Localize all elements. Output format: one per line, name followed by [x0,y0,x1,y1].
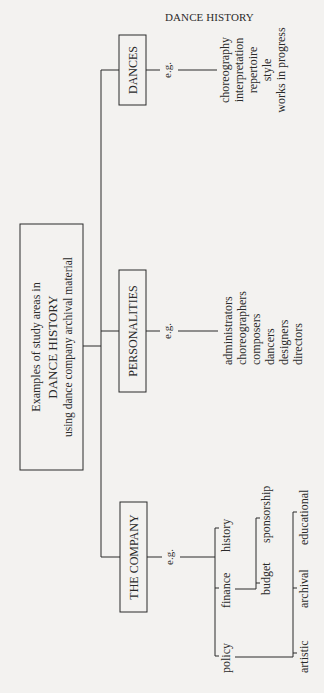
root-line-3: using dance company archival material [62,257,75,437]
personalities-item: directors [291,323,305,365]
dances-eg: e.g. [161,62,173,78]
branch-dances: DANCES e.g. choreography interpretation … [101,27,288,113]
personalities-label: PERSONALITIES [126,285,140,376]
dances-item: style [260,59,274,82]
company-eg: e.g. [163,549,175,565]
personalities-item: composers [249,313,263,365]
policy-sub-educational: educational [297,489,311,545]
dances-item: repertoire [246,47,260,94]
study-areas-diagram: Examples of study areas in DANCE HISTORY… [0,0,324,693]
personalities-item: administrators [221,296,235,365]
page: DANCE HISTORY Examples of study areas in… [0,0,324,693]
company-item-history: history [219,519,233,552]
finance-sub-budget: budget [259,562,273,595]
personalities-item: designers [277,319,291,365]
personalities-item: choreographers [235,291,249,365]
policy-sub-archival: archival [297,569,311,608]
root-line-1: Examples of study areas in [29,282,43,411]
policy-sub-artistic: artistic [297,640,311,673]
company-item-finance: finance [219,573,233,608]
branch-company: THE COMPANY e.g. history finance policy … [101,486,311,673]
dances-label: DANCES [126,46,140,94]
root-line-2: DANCE HISTORY [45,295,60,399]
dances-item: choreography [218,37,232,103]
finance-sub-sponsorship: sponsorship [259,486,273,543]
branch-personalities: PERSONALITIES e.g. administrators choreo… [101,270,305,392]
personalities-eg: e.g. [161,323,173,339]
root-node: Examples of study areas in DANCE HISTORY… [20,224,83,470]
personalities-item: dancers [263,328,277,365]
dances-item: interpretation [232,38,246,103]
company-label: THE COMPANY [127,514,141,600]
company-item-policy: policy [219,643,233,673]
dances-item: works in progress [274,27,288,113]
